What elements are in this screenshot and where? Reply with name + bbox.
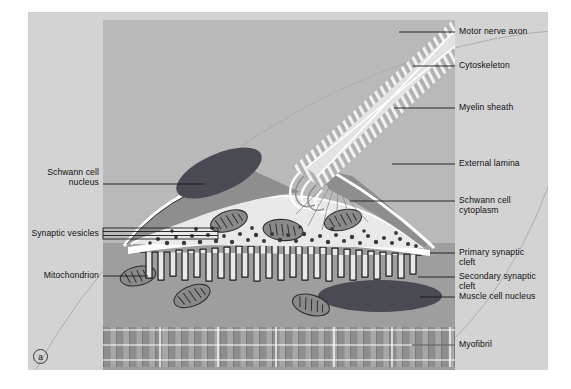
label-secondary-synaptic-cleft-line1: Secondary synaptic <box>459 271 536 281</box>
label-myofibril: Myofibril <box>459 339 492 349</box>
label-synaptic-vesicles: Synaptic vesicles <box>0 228 99 238</box>
figure-root: Motor nerve axon Cytoskeleton Myelin she… <box>0 0 571 389</box>
label-primary-synaptic-cleft: Primary synaptic cleft <box>459 247 524 268</box>
label-primary-synaptic-cleft-line1: Primary synaptic <box>459 247 524 257</box>
panel-letter-a: a <box>33 349 48 364</box>
leader-synaptic-vesicles <box>103 228 218 239</box>
label-motor-nerve-axon: Motor nerve axon <box>459 26 527 36</box>
label-mitochondrion: Mitochondrion <box>0 270 99 280</box>
label-schwann-cell-cytoplasm: Schwann cell cytoplasm <box>459 195 511 216</box>
label-muscle-cell-nucleus: Muscle cell nucleus <box>459 291 535 301</box>
label-secondary-synaptic-cleft-line2: cleft <box>459 281 475 291</box>
label-schwann-cell-nucleus-line1: Schwann cell <box>47 167 99 177</box>
label-secondary-synaptic-cleft: Secondary synaptic cleft <box>459 271 536 292</box>
label-schwann-cell-nucleus-line2: nucleus <box>69 177 99 187</box>
label-schwann-cell-cytoplasm-line2: cytoplasm <box>459 205 499 215</box>
label-schwann-cell-nucleus: Schwann cell nucleus <box>0 167 99 188</box>
label-external-lamina: External lamina <box>459 158 520 168</box>
label-schwann-cell-cytoplasm-line1: Schwann cell <box>459 195 511 205</box>
label-cytoskeleton: Cytoskeleton <box>459 60 510 70</box>
label-primary-synaptic-cleft-line2: cleft <box>459 257 475 267</box>
label-myelin-sheath: Myelin sheath <box>459 102 513 112</box>
